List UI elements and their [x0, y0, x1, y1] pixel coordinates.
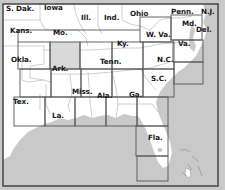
- state-label-ky: Ky.: [117, 40, 129, 47]
- state-label-miss: Miss.: [72, 88, 92, 95]
- state-label-okla: Okla.: [11, 56, 31, 63]
- state-label-fla: Fla.: [148, 134, 163, 141]
- state-label-iowa: Iowa: [44, 4, 63, 11]
- state-label-ill: Ill.: [81, 14, 91, 21]
- state-label-ind: Ind.: [104, 14, 119, 21]
- state-label-mo: Mo.: [53, 29, 68, 36]
- state-label-va: Va.: [178, 40, 190, 47]
- state-label-nj: N.J.: [201, 8, 215, 15]
- state-label-tex: Tex.: [13, 98, 29, 105]
- state-label-w-va: W. Va.: [146, 31, 171, 38]
- state-label-penn: Penn.: [171, 8, 194, 15]
- state-label-ark: Ark.: [52, 65, 68, 72]
- state-label-sc: S.C.: [151, 75, 167, 82]
- state-label-tenn: Tenn.: [100, 58, 121, 65]
- state-label-nc: N.C.: [157, 56, 173, 63]
- state-label-md: Md.: [182, 20, 197, 27]
- state-label-ala: Ala.: [97, 92, 112, 99]
- chart-coverage-map: [0, 0, 225, 190]
- state-label-la: La.: [52, 112, 64, 119]
- state-label-del: Del.: [196, 26, 212, 33]
- state-label-ga: Ga.: [129, 91, 142, 98]
- lake-okeechobee: [158, 148, 163, 152]
- state-label-kans: Kans.: [10, 27, 32, 34]
- state-label-ohio: Ohio: [130, 10, 148, 17]
- state-label-s-dak: S. Dak.: [6, 5, 34, 12]
